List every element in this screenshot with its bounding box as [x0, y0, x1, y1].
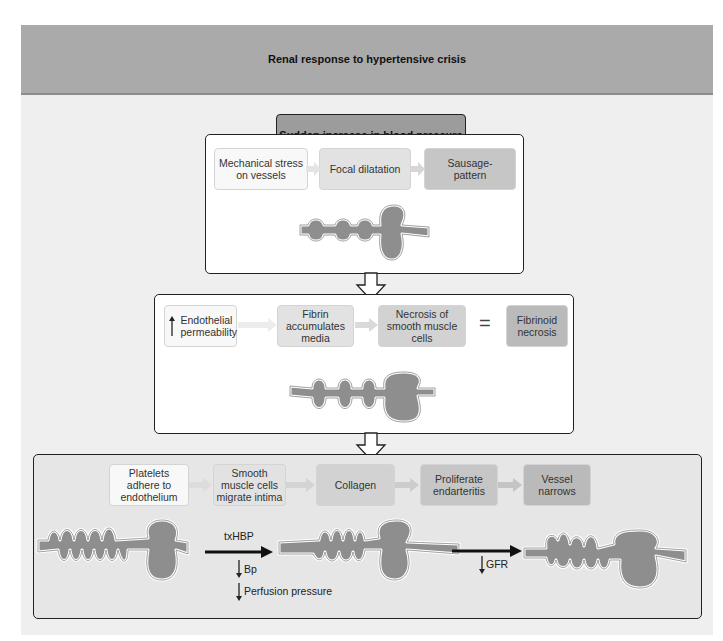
- step-arrow-icon: [395, 478, 420, 492]
- stage3-step-collagen: Collagen: [316, 464, 395, 506]
- equals-sign: =: [479, 312, 491, 335]
- up-arrow-icon: [169, 316, 175, 336]
- step-arrow-icon: [189, 478, 213, 492]
- stage3-step-smooth-muscle: Smooth muscle cells migrate intima: [213, 464, 286, 506]
- beaded-vessel-icon: [290, 372, 435, 424]
- step-arrow-icon: [410, 162, 426, 176]
- sausage-vessel-icon: [300, 205, 430, 263]
- down-arrow-icon: [236, 583, 242, 601]
- stage2-step-endothelial-permeability: Endothelial permeability: [164, 305, 237, 347]
- header-band: Renal response to hypertensive crisis: [21, 25, 713, 95]
- corrugated-vessel-icon: [524, 530, 686, 590]
- step-arrow-icon: [286, 478, 316, 492]
- effect-perfusion-pressure: Perfusion pressure: [244, 585, 332, 597]
- corrugated-vessel-icon: [279, 520, 459, 584]
- stage2-step-fibrin-accumulates: Fibrin accumulates media: [277, 305, 354, 347]
- stage3-step-vessel-narrows: Vessel narrows: [523, 464, 591, 506]
- stage2-step-necrosis: Necrosis of smooth muscle cells: [378, 305, 466, 347]
- stage3-step-proliferate-endarteritis: Proliferate endarteritis: [420, 464, 498, 506]
- stage1-step-sausage-pattern: Sausage-pattern: [424, 148, 516, 190]
- stage3-step-platelets: Platelets adhere to endothelium: [109, 464, 189, 506]
- stage1-step-focal-dilatation: Focal dilatation: [319, 148, 411, 190]
- stage1-step-mechanical-stress: Mechanical stress on vessels: [214, 148, 308, 190]
- effect-bp: Bp: [244, 563, 257, 575]
- step-arrow-icon: [355, 318, 379, 332]
- arrow1-label-txhbp: txHBP: [224, 530, 254, 542]
- step-arrow-icon: [238, 318, 278, 332]
- process-arrow-right-icon: [452, 544, 524, 558]
- corrugated-vessel-icon: [38, 520, 188, 584]
- step-arrow-icon: [498, 478, 523, 492]
- stage2-step-label: Endothelial permeability: [181, 314, 233, 338]
- effect-gfr: GFR: [486, 558, 508, 570]
- down-arrow-icon: [479, 556, 485, 574]
- down-arrow-icon: [236, 560, 242, 578]
- diagram-title: Renal response to hypertensive crisis: [268, 53, 466, 65]
- stage2-result-fibrinoid-necrosis: Fibrinoid necrosis: [506, 305, 568, 347]
- process-arrow-right-icon: [205, 545, 275, 559]
- step-arrow-icon: [306, 162, 322, 176]
